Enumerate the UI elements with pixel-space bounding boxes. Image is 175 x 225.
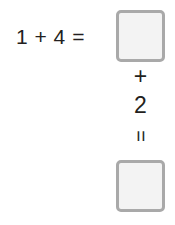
answer-input-2[interactable]	[116, 160, 165, 212]
continuation-stack: + 2 =	[116, 64, 165, 158]
continuation-equals-sign: =	[131, 130, 151, 142]
math-worksheet: 1 + 4 = + 2 =	[0, 0, 175, 225]
answer-input-1[interactable]	[116, 10, 165, 62]
continuation-operator: +	[134, 64, 147, 88]
equation-expression: 1 + 4 =	[16, 26, 85, 47]
continuation-operand: 2	[134, 92, 147, 119]
